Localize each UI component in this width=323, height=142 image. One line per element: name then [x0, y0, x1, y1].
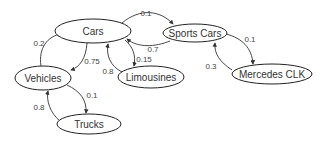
- edge-label-cars-limousines: 0.15: [136, 55, 152, 64]
- node-vehicles-label: Vehicles: [24, 73, 61, 84]
- edge-trucks-to-vehicles: [48, 91, 61, 121]
- node-limousines-label: Limousines: [126, 72, 177, 83]
- node-cars[interactable]: Cars: [55, 19, 131, 43]
- edge-label-cars-vehicles: 0.75: [84, 57, 100, 66]
- node-cars-label: Cars: [82, 26, 103, 37]
- edge-label-trucks-vehicles: 0.8: [33, 103, 45, 112]
- edge-label-vehicles-cars: 0.2: [33, 39, 45, 48]
- node-trucks-label: Trucks: [74, 119, 104, 130]
- node-mercedes-clk-label: Mercedes CLK: [239, 69, 305, 80]
- edge-label-cars-sports-cars: 0.1: [140, 9, 152, 18]
- node-mercedes-clk[interactable]: Mercedes CLK: [232, 64, 312, 84]
- graph-canvas: 0.1 0.7 0.2 0.75 0.15 0.8 0.1 0.3 0.1 0.…: [0, 0, 323, 142]
- edge-mercedes-to-sports-cars: [215, 43, 232, 70]
- node-vehicles[interactable]: Vehicles: [15, 66, 71, 90]
- edge-label-mercedes-sports-cars: 0.3: [205, 62, 217, 71]
- node-sports-cars-label: Sports Cars: [169, 28, 222, 39]
- edge-label-sports-cars-cars: 0.7: [147, 45, 159, 54]
- edge-label-limousines-cars: 0.8: [102, 67, 114, 76]
- edge-cars-to-limousines: [125, 40, 135, 66]
- edge-label-sports-cars-mercedes: 0.1: [244, 35, 256, 44]
- edge-vehicles-to-trucks: [67, 85, 86, 113]
- node-limousines[interactable]: Limousines: [118, 66, 184, 88]
- edge-label-vehicles-trucks: 0.1: [86, 91, 98, 100]
- node-sports-cars[interactable]: Sports Cars: [163, 24, 227, 42]
- node-trucks[interactable]: Trucks: [57, 114, 121, 134]
